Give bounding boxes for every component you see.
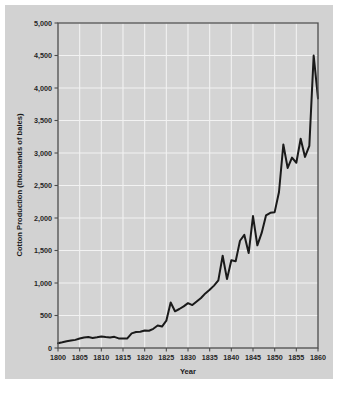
y-tick-label: 500 [40,311,52,320]
y-tick-label: 2,000 [34,214,52,223]
y-tick-label: 0 [48,344,52,353]
x-tick-label: 1810 [93,353,109,362]
x-tick-label: 1805 [72,353,88,362]
x-tick-label: 1800 [50,353,66,362]
y-tick-label: 3,000 [34,149,52,158]
x-tick-label: 1835 [202,353,218,362]
x-tick-label: 1830 [180,353,196,362]
y-tick-label: 1,500 [34,246,52,255]
y-axis-title: Cotton Production (thousands of bales) [15,113,24,256]
x-tick-label: 1840 [223,353,239,362]
x-tick-label: 1855 [288,353,304,362]
y-axis-tick-labels: 05001,0001,5002,0002,5003,0003,5004,0004… [34,19,52,353]
cotton-production-line-chart: 05001,0001,5002,0002,5003,0003,5004,0004… [5,5,333,379]
y-tick-label: 5,000 [34,19,52,28]
y-tick-label: 3,500 [34,116,52,125]
x-tick-label: 1860 [310,353,326,362]
x-tick-label: 1820 [137,353,153,362]
x-tick-label: 1850 [267,353,283,362]
y-tick-label: 1,000 [34,279,52,288]
figure-panel: 05001,0001,5002,0002,5003,0003,5004,0004… [5,5,333,379]
x-tick-label: 1825 [158,353,174,362]
x-tick-label: 1815 [115,353,131,362]
x-tick-label: 1845 [245,353,261,362]
x-axis-title: Year [180,367,196,376]
y-tick-label: 4,500 [34,51,52,60]
x-axis-tick-labels: 1800180518101815182018251830183518401845… [50,353,326,362]
screenshot-root: 05001,0001,5002,0002,5003,0003,5004,0004… [0,0,338,395]
y-tick-label: 2,500 [34,181,52,190]
y-tick-label: 4,000 [34,84,52,93]
